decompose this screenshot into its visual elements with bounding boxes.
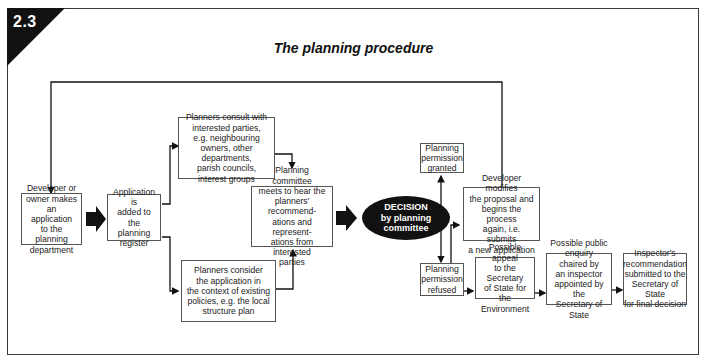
refused-to-modify-arrow — [451, 225, 459, 265]
box-planners-consider: Planners consider the application in the… — [181, 260, 276, 322]
block-arrow-1 — [86, 206, 106, 232]
box-inspector-recommendation: Inspector's recommendation submitted to … — [623, 253, 687, 305]
box-committee-meets: Planning committee meets to hear the pla… — [251, 186, 333, 247]
box-permission-granted: Planning permission granted — [420, 143, 464, 173]
box-application-register: Application is added to the planning reg… — [107, 194, 161, 241]
box-possible-appeal: Possible appeal to the Secretary of Stat… — [475, 257, 535, 299]
box-permission-refused: Planning permission refused — [420, 263, 464, 296]
box-public-enquiry: Possible public enquiry chaired by an in… — [546, 253, 612, 305]
block-arrow-2 — [336, 205, 357, 231]
box-developer-applies: Developer or owner makes an application … — [21, 193, 82, 245]
register-to-consider-arrow — [162, 237, 178, 291]
box-developer-modifies: Developer modifies the proposal and begi… — [463, 187, 540, 241]
register-to-consult-arrow — [162, 146, 178, 204]
decision-node: DECISION by planning committee — [362, 196, 450, 240]
